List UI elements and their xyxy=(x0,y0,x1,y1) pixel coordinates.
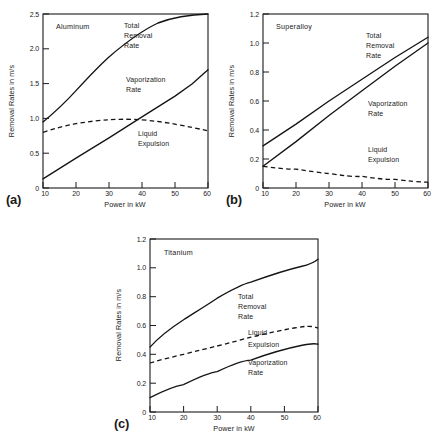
chart-svg-c: 0 0.2 0.4 0.6 0.8 1.0 1.2 10 20 30 40 50… xyxy=(108,225,338,447)
x-axis-ticks-c xyxy=(150,406,318,412)
chart-panel-a: 0 0.5 1.0 1.5 2.0 2.5 10 20 30 40 50 60 … xyxy=(0,0,220,215)
x-axis-tick-labels-c: 10 20 30 40 50 60 xyxy=(148,414,321,421)
x-tick-label: 40 xyxy=(138,190,146,197)
y-tick-label: 0.8 xyxy=(137,293,146,300)
panel-tag-b: (b) xyxy=(226,192,242,207)
series-total-removal-rate-b xyxy=(263,37,428,146)
y-tick-label: 0 xyxy=(142,409,146,416)
y-tick-label: 1.0 xyxy=(137,264,146,271)
y-tick-label: 0 xyxy=(255,185,259,192)
chart-panel-b: 0 0.2 0.4 0.6 0.8 1.0 1.2 10 20 30 40 50… xyxy=(220,0,440,215)
svg-text:Total: Total xyxy=(366,32,382,39)
y-axis-title-b: Removal Rates in m/s xyxy=(227,65,236,138)
chart-svg-b: 0 0.2 0.4 0.6 0.8 1.0 1.2 10 20 30 40 50… xyxy=(220,0,440,215)
series-label-vaporization-b: Vaporization Rate xyxy=(368,100,408,117)
y-tick-label: 1.0 xyxy=(250,40,259,47)
y-axis-title-a: Removal Rates in m/s xyxy=(7,65,16,138)
y-tick-label: 0 xyxy=(35,185,39,192)
y-tick-label: 2.0 xyxy=(30,45,39,52)
x-tick-label: 40 xyxy=(358,190,366,197)
svg-text:Rate: Rate xyxy=(124,42,139,49)
svg-text:Rate: Rate xyxy=(368,110,383,117)
y-tick-label: 1.5 xyxy=(30,80,39,87)
x-tick-label: 60 xyxy=(203,190,211,197)
y-tick-label: 0.2 xyxy=(137,380,146,387)
svg-text:Expulsion: Expulsion xyxy=(138,140,169,148)
x-tick-label: 20 xyxy=(180,414,188,421)
x-axis-tick-labels-a: 10 20 30 40 50 60 xyxy=(41,190,211,197)
series-label-total-c: Total Removal Rate xyxy=(238,293,267,320)
chart-panel-c: 0 0.2 0.4 0.6 0.8 1.0 1.2 10 20 30 40 50… xyxy=(108,225,338,447)
x-tick-label: 30 xyxy=(325,190,333,197)
material-label-a: Aluminum xyxy=(56,22,90,31)
x-tick-label: 50 xyxy=(281,414,289,421)
x-axis-title-c: Power in kW xyxy=(213,424,255,433)
x-axis-title-a: Power in kW xyxy=(104,200,146,209)
series-total-removal-rate-c xyxy=(150,259,318,347)
material-label-c: Titanium xyxy=(164,248,193,257)
panel-tag-a: (a) xyxy=(6,192,21,207)
svg-text:Liquid: Liquid xyxy=(248,329,267,337)
y-axis-ticks-c xyxy=(150,239,156,412)
y-axis-tick-labels-a: 0 0.5 1.0 1.5 2.0 2.5 xyxy=(30,11,39,192)
series-label-vaporization-a: Vaporization Rate xyxy=(126,76,166,93)
y-tick-label: 0.4 xyxy=(250,127,259,134)
series-label-vaporization-c: Vaporization Rate xyxy=(248,359,288,376)
svg-text:Rate: Rate xyxy=(238,313,253,320)
x-tick-label: 10 xyxy=(148,414,156,421)
x-tick-label: 20 xyxy=(292,190,300,197)
y-tick-label: 2.5 xyxy=(30,11,39,18)
svg-text:Removal: Removal xyxy=(124,32,153,39)
svg-text:Total: Total xyxy=(124,22,140,29)
series-liquid-expulsion-b xyxy=(263,166,428,182)
y-tick-label: 1.2 xyxy=(137,236,146,243)
x-axis-ticks-a xyxy=(43,182,208,188)
svg-text:Rate: Rate xyxy=(248,369,263,376)
panel-tag-c: (c) xyxy=(114,416,129,431)
chart-svg-a: 0 0.5 1.0 1.5 2.0 2.5 10 20 30 40 50 60 … xyxy=(0,0,220,215)
series-liquid-expulsion-c xyxy=(150,326,318,363)
series-label-total-b: Total Removal Rate xyxy=(366,32,395,59)
y-tick-label: 1.0 xyxy=(30,115,39,122)
y-tick-label: 0.5 xyxy=(30,150,39,157)
svg-text:Expulsion: Expulsion xyxy=(248,341,279,349)
svg-text:Liquid: Liquid xyxy=(138,130,157,138)
y-tick-label: 0.4 xyxy=(137,351,146,358)
series-vaporization-rate-c xyxy=(150,344,318,398)
y-tick-label: 0.6 xyxy=(250,98,259,105)
svg-text:Vaporization: Vaporization xyxy=(126,76,166,84)
x-axis-ticks-b xyxy=(263,182,428,188)
x-tick-label: 60 xyxy=(313,414,321,421)
y-axis-tick-labels-b: 0 0.2 0.4 0.6 0.8 1.0 1.2 xyxy=(250,11,259,192)
svg-text:Vaporization: Vaporization xyxy=(248,359,288,367)
plot-frame-a xyxy=(43,14,208,188)
y-axis-ticks-a xyxy=(43,14,49,188)
series-label-total-a: Total Removal Rate xyxy=(124,22,153,49)
svg-text:Rate: Rate xyxy=(366,52,381,59)
y-axis-tick-labels-c: 0 0.2 0.4 0.6 0.8 1.0 1.2 xyxy=(137,236,146,416)
series-liquid-expulsion-a xyxy=(43,119,208,132)
x-axis-tick-labels-b: 10 20 30 40 50 60 xyxy=(261,190,431,197)
svg-text:Vaporization: Vaporization xyxy=(368,100,408,108)
x-tick-label: 40 xyxy=(247,414,255,421)
x-tick-label: 30 xyxy=(214,414,222,421)
x-tick-label: 30 xyxy=(105,190,113,197)
x-tick-label: 10 xyxy=(261,190,269,197)
svg-text:Removal: Removal xyxy=(366,42,395,49)
svg-text:Total: Total xyxy=(238,293,254,300)
x-tick-label: 50 xyxy=(171,190,179,197)
y-tick-label: 0.6 xyxy=(137,322,146,329)
y-tick-label: 1.2 xyxy=(250,11,259,18)
series-label-liquid-expulsion-a: Liquid Expulsion xyxy=(138,130,169,148)
material-label-b: Superalloy xyxy=(276,22,312,31)
series-label-liquid-expulsion-c: Liquid Expulsion xyxy=(248,329,279,349)
x-tick-label: 60 xyxy=(423,190,431,197)
svg-text:Rate: Rate xyxy=(126,86,141,93)
svg-text:Removal: Removal xyxy=(238,303,267,310)
series-label-liquid-expulsion-b: Liquid Expulsion xyxy=(368,146,399,164)
x-tick-label: 50 xyxy=(391,190,399,197)
x-axis-title-b: Power in kW xyxy=(324,200,366,209)
svg-text:Expulsion: Expulsion xyxy=(368,156,399,164)
svg-text:Liquid: Liquid xyxy=(368,146,387,154)
y-tick-label: 0.2 xyxy=(250,156,259,163)
